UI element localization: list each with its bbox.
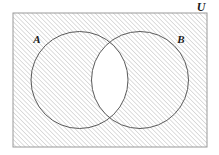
label-universe: U <box>197 0 207 14</box>
label-set-b: B <box>176 33 184 45</box>
venn-diagram-canvas: U A B <box>0 0 219 155</box>
label-set-a: A <box>32 33 40 45</box>
venn-diagram-figure: U A B <box>0 0 219 155</box>
